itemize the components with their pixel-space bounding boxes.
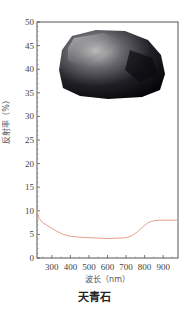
y-tick-label: 35 — [25, 88, 35, 98]
x-tick-label: 600 — [101, 262, 115, 272]
reflectance-chart: 0510152025303540455030040050060070080090… — [0, 0, 188, 310]
x-tick-label: 800 — [138, 262, 152, 272]
y-tick-label: 15 — [25, 182, 35, 192]
reflectance-curve — [37, 211, 178, 239]
y-axis-title: 反射率（%） — [1, 96, 11, 144]
x-tick-label: 700 — [119, 262, 133, 272]
y-tick-label: 20 — [25, 159, 35, 169]
y-tick-label: 5 — [30, 229, 35, 239]
y-tick-label: 25 — [25, 135, 35, 145]
x-tick-label: 400 — [64, 262, 78, 272]
y-tick-label: 40 — [25, 64, 35, 74]
y-tick-label: 10 — [25, 206, 35, 216]
x-tick-label: 900 — [156, 262, 170, 272]
plot-area: 0510152025303540455030040050060070080090… — [1, 17, 178, 284]
y-tick-label: 50 — [25, 17, 35, 27]
y-tick-label: 30 — [25, 111, 35, 121]
y-tick-label: 0 — [30, 253, 35, 263]
x-tick-label: 300 — [45, 262, 59, 272]
x-axis-title: 波长（nm） — [85, 274, 130, 284]
y-tick-label: 45 — [25, 41, 35, 51]
chart-caption: 天青石 — [0, 288, 188, 304]
x-tick-label: 500 — [82, 262, 96, 272]
